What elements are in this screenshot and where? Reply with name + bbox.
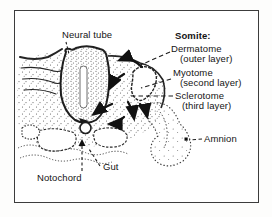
label-somite-heading: Somite: (175, 31, 211, 41)
label-myotome-sub: (second layer) (180, 78, 242, 88)
figure-page: { "figure": { "ink": "#1c1c1c", "backgro… (0, 0, 272, 217)
leader-dermatome (136, 52, 170, 67)
label-amnion: Amnion (204, 134, 237, 144)
leader-amnion (189, 139, 202, 140)
leader-gut (89, 149, 100, 166)
label-dermatome-sub: (outer layer) (180, 54, 233, 64)
label-neural-tube: Neural tube (62, 30, 112, 40)
amnion-anchor-dot (185, 138, 188, 141)
neural-tube-shape (61, 46, 110, 123)
label-notochord: Notochord (37, 173, 82, 183)
amnion-shape (148, 103, 191, 166)
label-gut: Gut (103, 162, 119, 172)
neural-canal (80, 66, 87, 108)
label-sclerotome-sub: (third layer) (182, 101, 231, 111)
